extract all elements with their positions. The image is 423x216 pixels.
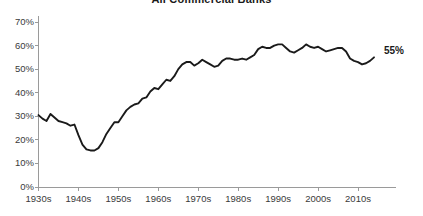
end-value-annotation: 55% xyxy=(384,45,404,56)
data-series-line xyxy=(39,44,375,150)
axis-lines xyxy=(39,16,397,187)
chart-container: All Commercial Banks 70%60%50%40%30%20%1… xyxy=(0,0,423,216)
plot-area xyxy=(0,0,423,216)
